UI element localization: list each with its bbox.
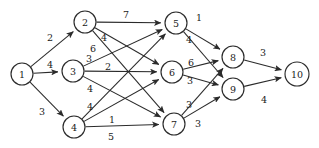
node-9[interactable]: 9 bbox=[222, 78, 244, 100]
node-label-7: 7 bbox=[171, 119, 177, 130]
edge-9-to-10 bbox=[244, 78, 281, 87]
node-label-2: 2 bbox=[82, 17, 88, 28]
node-label-1: 1 bbox=[19, 69, 25, 80]
edge-weight-3-5: 3 bbox=[86, 53, 92, 64]
node-2[interactable]: 2 bbox=[74, 11, 96, 33]
network-diagram: 12345678910 24374632441514633334 bbox=[0, 0, 319, 148]
edge-weight-5-8: 1 bbox=[196, 12, 202, 23]
edge-4-to-6 bbox=[84, 79, 159, 121]
node-7[interactable]: 7 bbox=[163, 113, 185, 135]
edge-weight-2-5: 7 bbox=[123, 9, 129, 20]
node-3[interactable]: 3 bbox=[62, 60, 84, 82]
node-label-10: 10 bbox=[291, 69, 303, 80]
edge-weight-9-10: 4 bbox=[261, 94, 267, 105]
node-label-6: 6 bbox=[169, 67, 175, 78]
edge-weight-4-5: 4 bbox=[87, 101, 93, 112]
edge-3-to-7 bbox=[83, 76, 160, 117]
node-label-4: 4 bbox=[71, 122, 77, 133]
node-4[interactable]: 4 bbox=[63, 116, 85, 138]
edge-weight-8-10: 3 bbox=[260, 47, 266, 58]
edge-weight-5-9: 4 bbox=[186, 34, 192, 45]
edge-weight-6-9: 3 bbox=[187, 75, 193, 86]
node-1[interactable]: 1 bbox=[11, 63, 33, 85]
node-8[interactable]: 8 bbox=[222, 46, 244, 68]
edge-weight-1-4: 3 bbox=[39, 106, 45, 117]
edge-weight-4-7: 5 bbox=[108, 131, 114, 142]
edge-weight-4-6: 1 bbox=[109, 114, 115, 125]
edge-weight-3-7: 4 bbox=[87, 83, 93, 94]
node-10[interactable]: 10 bbox=[285, 62, 309, 86]
edge-2-to-5 bbox=[97, 22, 161, 23]
edge-4-to-7 bbox=[85, 124, 158, 126]
edge-3-to-6 bbox=[85, 71, 157, 72]
edge-weight-1-3: 4 bbox=[47, 59, 53, 70]
edge-weight-2-6: 4 bbox=[101, 32, 107, 43]
edge-1-to-3 bbox=[33, 72, 57, 73]
graph-canvas: 12345678910 24374632441514633334 bbox=[0, 0, 319, 148]
edge-weight-7-9: 3 bbox=[195, 118, 201, 129]
edge-weight-7-8: 3 bbox=[186, 99, 192, 110]
edge-weight-3-6: 2 bbox=[105, 61, 111, 72]
node-5[interactable]: 5 bbox=[165, 12, 187, 34]
node-label-5: 5 bbox=[173, 18, 179, 29]
node-label-3: 3 bbox=[70, 66, 76, 77]
node-6[interactable]: 6 bbox=[161, 61, 183, 83]
edge-weight-6-8: 6 bbox=[188, 57, 194, 68]
edge-1-to-4 bbox=[30, 82, 63, 116]
edge-weight-1-2: 2 bbox=[47, 32, 53, 43]
node-label-9: 9 bbox=[230, 84, 236, 95]
node-label-8: 8 bbox=[230, 52, 236, 63]
edge-8-to-10 bbox=[244, 60, 281, 70]
